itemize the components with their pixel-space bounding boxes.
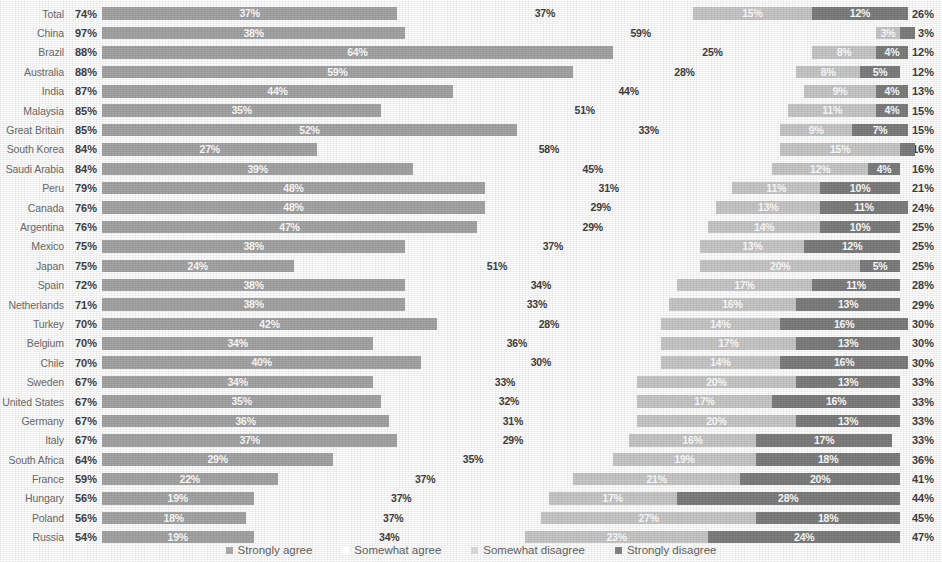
segment-value-somewhat-agree: 32% [499, 396, 519, 407]
total-agree-value: 56% [68, 512, 102, 524]
bar-segment-somewhat-agree: 37% [246, 512, 541, 525]
segment-value-somewhat-disagree: 13% [742, 241, 762, 252]
bar-segment-strongly-agree: 48% [102, 201, 485, 214]
bar-segment-somewhat-agree: 58% [317, 143, 780, 156]
segment-value-somewhat-disagree: 3% [881, 28, 896, 39]
segment-value-strongly-disagree: 17% [814, 435, 834, 446]
segment-value-somewhat-disagree: 14% [710, 357, 730, 368]
bar-segment-somewhat-agree: 32% [381, 395, 636, 408]
category-label: Belgium [0, 337, 68, 349]
stacked-bar: 18%37%27%18% [102, 512, 900, 525]
segment-value-strongly-agree: 48% [283, 183, 303, 194]
legend-item-strongly-agree[interactable]: Strongly agree [226, 544, 313, 556]
legend-item-somewhat-disagree[interactable]: Somewhat disagree [471, 544, 585, 556]
segment-value-strongly-disagree: 12% [850, 8, 870, 19]
segment-value-strongly-agree: 37% [239, 8, 259, 19]
segment-value-somewhat-disagree: 15% [742, 8, 762, 19]
segment-value-somewhat-disagree: 11% [766, 183, 786, 194]
bar-segment-strongly-disagree: 5% [860, 66, 900, 79]
segment-value-strongly-disagree: 16% [826, 396, 846, 407]
legend-label: Somewhat agree [354, 544, 441, 556]
total-agree-value: 97% [68, 27, 102, 39]
bar-segment-somewhat-agree: 33% [517, 124, 780, 137]
chart-row: South Korea84%27%58%15%1%16% [0, 140, 942, 159]
segment-value-somewhat-agree: 59% [630, 28, 650, 39]
segment-value-somewhat-agree: 45% [583, 164, 603, 175]
segment-value-somewhat-agree: 37% [535, 8, 555, 19]
chart-row: Mexico75%38%37%13%12%25% [0, 237, 942, 256]
bar-segment-strongly-agree: 19% [102, 492, 254, 505]
segment-value-strongly-agree: 24% [188, 261, 208, 272]
bar-segment-strongly-agree: 34% [102, 376, 373, 389]
total-disagree-value: 25% [900, 221, 942, 233]
bar-segment-somewhat-agree: 29% [485, 201, 716, 214]
bar-segment-strongly-disagree: 13% [796, 415, 900, 428]
stacked-bar: 19%37%17%28% [102, 492, 900, 505]
total-agree-value: 85% [68, 105, 102, 117]
total-disagree-value: 33% [900, 396, 942, 408]
bar-segment-strongly-disagree: 11% [820, 201, 908, 214]
chart-row: Poland56%18%37%27%18%45% [0, 508, 942, 527]
segment-value-somewhat-disagree: 14% [710, 319, 730, 330]
bar-segment-strongly-agree: 48% [102, 182, 485, 195]
chart-row: Total74%37%37%15%12%26% [0, 4, 942, 23]
chart-row: Canada76%48%29%13%11%24% [0, 198, 942, 217]
stacked-bar: 35%51%11%4% [102, 104, 900, 117]
total-disagree-value: 29% [900, 299, 942, 311]
segment-value-strongly-disagree: 16% [834, 319, 854, 330]
bar-segment-somewhat-disagree: 16% [629, 434, 757, 447]
segment-value-strongly-agree: 64% [347, 47, 367, 58]
segment-value-somewhat-disagree: 13% [758, 202, 778, 213]
legend-item-somewhat-agree[interactable]: Somewhat agree [342, 544, 441, 556]
total-disagree-value: 25% [900, 260, 942, 272]
total-disagree-value: 28% [900, 279, 942, 291]
segment-value-strongly-agree: 47% [279, 222, 299, 233]
total-agree-value: 79% [68, 182, 102, 194]
bar-segment-somewhat-agree: 31% [389, 415, 636, 428]
category-label: South Africa [0, 454, 68, 466]
category-label: Germany [0, 415, 68, 427]
chart-row: Netherlands71%38%33%16%13%29% [0, 295, 942, 314]
bar-segment-somewhat-disagree: 3% [876, 27, 900, 40]
bar-segment-somewhat-agree: 45% [413, 163, 772, 176]
legend-item-strongly-disagree[interactable]: Strongly disagree [615, 544, 717, 556]
segment-value-somewhat-agree: 44% [618, 86, 638, 97]
legend-label: Somewhat disagree [483, 544, 585, 556]
total-agree-value: 70% [68, 357, 102, 369]
segment-value-strongly-agree: 38% [243, 299, 263, 310]
bar-segment-strongly-agree: 38% [102, 298, 405, 311]
bar-segment-strongly-agree: 40% [102, 356, 421, 369]
bar-segment-somewhat-agree: 28% [437, 318, 660, 331]
chart-row: Argentina76%47%29%14%10%25% [0, 217, 942, 236]
segment-value-somewhat-disagree: 17% [718, 338, 738, 349]
total-disagree-value: 33% [900, 434, 942, 446]
bar-segment-strongly-agree: 52% [102, 124, 517, 137]
segment-value-strongly-disagree: 13% [838, 338, 858, 349]
stacked-bar: 34%36%17%13% [102, 337, 900, 350]
segment-value-strongly-agree: 35% [231, 396, 251, 407]
segment-value-somewhat-agree: 29% [591, 202, 611, 213]
segment-value-strongly-agree: 38% [243, 280, 263, 291]
bar-segment-somewhat-disagree: 17% [661, 337, 797, 350]
stacked-bar: 38%34%17%11% [102, 279, 900, 292]
segment-value-somewhat-agree: 33% [495, 377, 515, 388]
total-disagree-value: 25% [900, 240, 942, 252]
total-disagree-value: 41% [900, 473, 942, 485]
bar-segment-strongly-agree: 42% [102, 318, 437, 331]
bar-segment-somewhat-disagree: 13% [716, 201, 820, 214]
bar-segment-strongly-agree: 47% [102, 221, 477, 234]
bar-segment-somewhat-disagree: 15% [780, 143, 900, 156]
total-agree-value: 84% [68, 143, 102, 155]
bar-segment-strongly-agree: 38% [102, 27, 405, 40]
bar-segment-strongly-agree: 36% [102, 415, 389, 428]
stacked-bar: 24%51%20%5% [102, 260, 900, 273]
bar-segment-strongly-disagree: 13% [796, 298, 900, 311]
segment-value-strongly-agree: 37% [239, 435, 259, 446]
stacked-bar: 37%29%16%17% [102, 434, 900, 447]
segment-value-somewhat-agree: 37% [415, 474, 435, 485]
segment-value-strongly-agree: 40% [251, 357, 271, 368]
bar-segment-strongly-disagree: 13% [796, 376, 900, 389]
segment-value-strongly-agree: 27% [200, 144, 220, 155]
total-agree-value: 67% [68, 376, 102, 388]
total-disagree-value: 33% [900, 415, 942, 427]
